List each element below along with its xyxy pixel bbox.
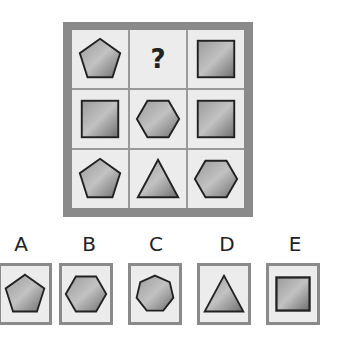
square-icon [76, 95, 124, 143]
pentagon-icon [2, 271, 48, 317]
option-e[interactable] [266, 263, 320, 325]
option-d[interactable] [197, 263, 251, 325]
question-mark: ? [150, 44, 165, 74]
square-icon [192, 95, 240, 143]
hexagon-icon [63, 271, 109, 317]
square-icon [192, 35, 240, 83]
option-label-e: E [280, 232, 310, 256]
square-icon [270, 271, 316, 317]
option-c[interactable] [128, 263, 182, 325]
option-label-c: C [141, 232, 171, 256]
hexagon-icon [134, 95, 182, 143]
heptagon-icon [132, 271, 178, 317]
option-label-d: D [212, 232, 242, 256]
option-label-a: A [6, 232, 36, 256]
grid-cell-r3c2 [130, 150, 186, 208]
hexagon-icon [192, 155, 240, 203]
grid-cell-r1c1 [72, 30, 128, 88]
grid-cell-r3c3 [188, 150, 244, 208]
puzzle-grid-frame: ? [63, 22, 253, 217]
puzzle-grid: ? [72, 30, 244, 208]
pentagon-icon [76, 155, 124, 203]
grid-cell-r2c2 [130, 90, 186, 148]
grid-cell-r1c2: ? [130, 30, 186, 88]
option-b[interactable] [59, 263, 113, 325]
grid-cell-r2c1 [72, 90, 128, 148]
grid-cell-r2c3 [188, 90, 244, 148]
pentagon-icon [76, 35, 124, 83]
option-a[interactable] [0, 263, 52, 325]
option-label-b: B [74, 232, 104, 256]
triangle-icon [134, 155, 182, 203]
triangle-icon [201, 271, 247, 317]
grid-cell-r3c1 [72, 150, 128, 208]
grid-cell-r1c3 [188, 30, 244, 88]
